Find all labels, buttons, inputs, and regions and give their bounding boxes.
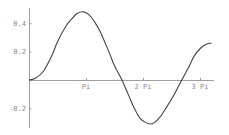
x-tick-label: 3 Pi [192,83,209,91]
data-series-line [29,12,211,124]
y-axis-ticks: 0.40.2-0.2 [9,20,31,113]
x-tick-label: 2 Pi [135,83,152,91]
x-tick-label: Pi [82,83,90,91]
y-tick-label: 0.4 [13,20,26,28]
x-axis-ticks: Pi2 Pi3 Pi [82,78,209,91]
line-chart: Pi2 Pi3 Pi 0.40.2-0.2 [0,0,229,135]
y-tick-label: 0.2 [13,48,26,56]
y-tick-label: -0.2 [9,105,26,113]
